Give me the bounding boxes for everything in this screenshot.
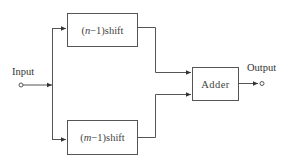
block-label-var: m [84,132,92,143]
adder-label: Adder [201,79,230,90]
adder-block: Adder [192,67,239,101]
output-terminal-icon [260,82,264,86]
block-label-suffix: −1)shift [91,132,124,143]
output-label: Output [247,62,276,73]
m-minus-1-shift-block: (m−1)shift [67,120,138,155]
connection-wires [0,0,291,163]
input-terminal-icon [19,83,23,87]
n-minus-1-shift-block: (n−1)shift [67,13,138,47]
input-label: Input [12,66,34,77]
block-label-suffix: −1)shift [90,25,123,36]
